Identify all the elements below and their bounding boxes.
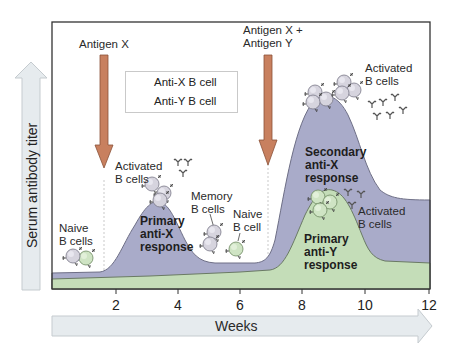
activated-secondary-label-line1: Activated [365,62,412,75]
activated-primary-label-line2: B cells [115,173,149,186]
primary-anti-x-label-line3: response [140,240,193,254]
x-tick-4: 4 [174,297,182,313]
legend-item-anti-y: Anti-Y B cell [154,93,216,109]
naive-b-cells-label-line1: Naive [59,222,88,235]
y-axis-label: Serum antibody titer [24,123,40,248]
naive-b-cells-label-line2: B cells [59,235,93,248]
x-tick-2: 2 [112,297,120,313]
primary-anti-x-label-line1: Primary [140,214,185,228]
x-axis-label: Weeks [215,318,258,334]
x-tick-6: 6 [236,297,244,313]
primary-anti-y-label-line3: response [304,258,357,272]
diagram-canvas [0,0,455,361]
activated-anti-y-label-line2: B cells [358,218,392,231]
x-tick-8: 8 [298,297,306,313]
primary-anti-x-label-line2: anti-X [140,227,173,241]
legend-item-anti-x: Anti-X B cell [154,74,217,90]
naive-b-cell-label-line2: B cell [233,221,261,234]
x-tick-12: 12 [421,297,437,313]
memory-b-cells-label-line1: Memory [191,190,233,203]
primary-anti-y-label-line2: anti-Y [304,245,337,259]
antigen-xy-label-line1: Antigen X + [243,24,303,37]
secondary-anti-x-label-line2: anti-X [305,158,338,172]
activated-primary-label-line1: Activated [115,160,162,173]
legend-label-anti-x: Anti-X B cell [154,76,217,88]
memory-b-cells-label-line2: B cells [191,203,225,216]
activated-anti-y-label-line1: Activated [358,205,405,218]
x-tick-marks [116,289,429,294]
naive-b-cell-label-line1: Naive [233,208,262,221]
legend: Anti-X B cell Anti-Y B cell [125,71,238,113]
primary-anti-y-label-line1: Primary [304,232,349,246]
antigen-x-label: Antigen X [79,38,129,51]
secondary-anti-x-label-line1: Secondary [305,145,366,159]
x-tick-10: 10 [357,297,373,313]
activated-secondary-label-line2: B cells [365,75,399,88]
legend-label-anti-y: Anti-Y B cell [154,95,216,107]
secondary-anti-x-label-line3: response [305,171,358,185]
antigen-xy-label-line2: Antigen Y [243,37,293,50]
